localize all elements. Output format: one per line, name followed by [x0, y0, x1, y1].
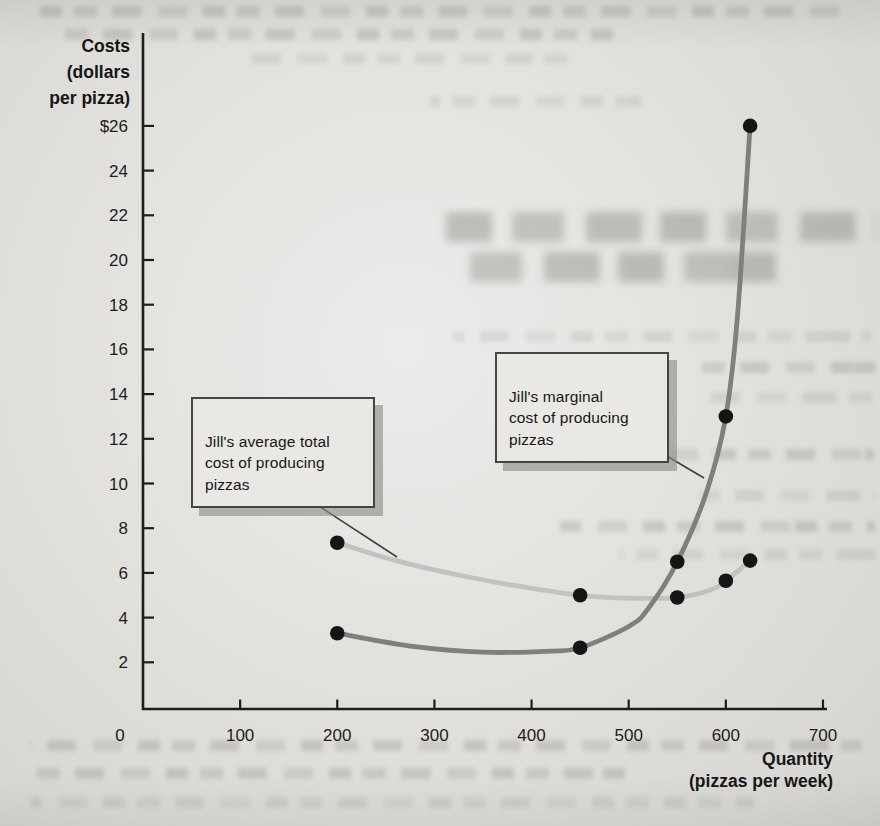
cost-curves-chart: $262422201816141210864201002003004005006… — [0, 0, 880, 826]
mc-curve-callout-label: Jill's marginal cost of producing pizzas — [509, 388, 629, 448]
atc-curve — [337, 543, 750, 599]
x-tick-label: 400 — [517, 726, 545, 745]
atc-curve-callout-box: Jill's average total cost of producing p… — [191, 397, 375, 508]
x-tick-label: 100 — [226, 726, 254, 745]
y-tick-label: 12 — [109, 430, 128, 449]
y-tick-label: 16 — [109, 340, 128, 359]
mc-data-point — [670, 554, 685, 569]
y-tick-label: 10 — [109, 475, 128, 494]
y-tick-label: $26 — [100, 117, 128, 136]
atc-data-point — [330, 535, 345, 550]
y-axis-title: (dollars — [67, 62, 130, 82]
y-tick-label: 2 — [119, 653, 128, 672]
mc-data-point — [719, 409, 734, 424]
x-tick-label: 600 — [712, 726, 740, 745]
x-axis-title: (pizzas per week) — [689, 771, 833, 791]
scanned-textbook-page: $262422201816141210864201002003004005006… — [0, 0, 880, 826]
atc-curve-callout-label: Jill's average total cost of producing p… — [205, 433, 330, 493]
y-tick-label: 24 — [109, 162, 128, 181]
y-axis-title: per pizza) — [49, 88, 130, 108]
y-tick-label: 18 — [109, 296, 128, 315]
y-axis-title: Costs — [81, 36, 130, 56]
x-axis-title: Quantity — [762, 749, 833, 769]
y-tick-label: 6 — [119, 564, 128, 583]
y-tick-label: 8 — [119, 519, 128, 538]
x-tick-label: 200 — [323, 726, 351, 745]
y-tick-label: 4 — [119, 609, 128, 628]
atc-data-point — [670, 590, 685, 605]
axes — [143, 33, 827, 709]
y-tick-label: 20 — [109, 251, 128, 270]
x-tick-label: 500 — [615, 726, 643, 745]
atc-data-point — [719, 573, 734, 588]
x-tick-label: 700 — [809, 726, 837, 745]
mc-curve-callout-box: Jill's marginal cost of producing pizzas — [495, 352, 669, 463]
x-tick-label: 0 — [115, 726, 124, 745]
x-tick-label: 300 — [420, 726, 448, 745]
y-tick-label: 22 — [109, 206, 128, 225]
mc-data-point — [330, 626, 345, 641]
mc-data-point — [573, 640, 588, 655]
y-tick-label: 14 — [109, 385, 128, 404]
atc-data-point — [743, 553, 758, 568]
atc-data-point — [573, 588, 588, 603]
mc-data-point — [743, 119, 758, 134]
